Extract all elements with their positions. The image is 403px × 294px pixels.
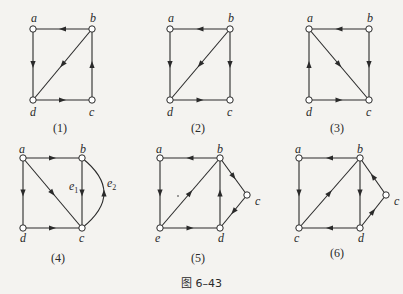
edge-b-c [366,29,371,100]
vertex-label-a: a [19,142,25,156]
graph-5: abcde(5) [155,142,261,265]
graph-caption-5: (5) [191,251,205,265]
figure-6-43: abcd(1)abcd(2)abcd(3)e1e2abcd(4)abcde(5)… [0,0,403,294]
arrowhead-icon [371,174,377,181]
arrowhead-icon [101,190,106,197]
arrowhead-icon [59,97,66,102]
vertex-label-a: a [31,11,37,25]
edge-b-a [160,155,220,160]
arrowhead-icon [49,155,56,160]
arrowhead-icon [197,97,204,102]
arrowhead-icon [227,61,232,68]
vertex-label-b: b [357,142,363,156]
edge-b-d [33,29,92,100]
graph-2: abcd(2) [167,11,234,135]
graph-collection: abcd(1)abcd(2)abcd(3)e1e2abcd(4)abcde(5)… [19,11,400,265]
arrowhead-icon [89,61,94,68]
edge-b-c [220,158,247,195]
arrowhead-icon [157,190,162,197]
edge-b-c [227,29,232,100]
graph-4: e1e2abcd(4) [19,142,116,265]
edge-label-e2: e2 [107,176,116,192]
vertex-label-d: d [167,105,174,119]
arrowhead-icon [217,190,222,197]
edge-a-c [309,29,369,100]
graph-1: abcd(1) [30,11,96,135]
graph-caption-2: (2) [191,121,205,135]
arrowhead-icon [187,155,194,160]
arrowhead-icon [30,61,35,68]
edge-a-b [23,155,82,160]
vertex-label-a: a [156,142,162,156]
figure-caption: 图 6–43 [181,277,222,290]
graph-caption-6: (6) [330,246,344,260]
vertex-a [306,26,312,32]
edge-b-c [79,158,84,228]
graph-6: abcdc(6) [294,142,400,260]
edge-label-e1: e1 [69,179,78,195]
vertex-a [30,26,36,32]
vertex-d [30,97,36,103]
edge-b-d [357,158,362,228]
edge-b-a [33,26,92,31]
arrowhead-icon [366,61,371,68]
vertex-label-d: d [30,105,37,119]
edge-d-c [170,97,230,102]
edge-a-c [23,158,82,228]
edge-d-c [309,97,369,102]
arrowhead-icon [326,155,333,160]
arrowhead-icon [296,190,301,197]
vertex-a [167,26,173,32]
vertex-label-a: a [307,11,313,25]
vertex-label-b: b [90,11,96,25]
vertex-label-d: d [20,231,27,245]
edge-d-c [33,97,92,102]
vertex-label-d: d [358,231,365,245]
arrowhead-icon [306,61,311,68]
arrowhead-icon [229,172,235,179]
vertex-label-d: d [218,231,225,245]
vertex-label-c: c [255,194,261,208]
edge-b-a [299,155,360,160]
arrowhead-icon [59,26,66,31]
edge-a-d [20,158,25,228]
vertex-label-b: b [80,142,86,156]
edge-b-a [309,26,369,31]
vertex-c [366,97,372,103]
edge-c-b [89,29,94,100]
vertex-b [366,26,372,32]
edge-c2-b [360,158,386,195]
arrowhead-icon [187,225,194,230]
arrowhead-icon [357,190,362,197]
vertex-b [227,26,233,32]
vertex-c [89,97,95,103]
vertex-label-a: a [168,11,174,25]
edge-b-d [170,29,230,100]
vertex-label-c: c [227,105,233,119]
graph-caption-4: (4) [51,251,65,265]
edge-d-c [23,225,82,230]
edge-c-d [220,195,247,228]
graph-caption-3: (3) [330,121,344,135]
arrowhead-icon [326,225,333,230]
edge-a-d [167,29,172,100]
vertex-label-b: b [217,142,223,156]
vertex-label-e: e [155,231,161,245]
arrowhead-icon [79,190,84,197]
arrowhead-icon [49,225,56,230]
arrowhead-icon [336,26,343,31]
vertex-label-b: b [228,11,234,25]
vertex-label-c: c [294,231,300,245]
edge-a-c [296,158,301,228]
vertex-label-d: d [306,105,313,119]
arrowhead-icon [197,26,204,31]
edge-e-d [160,225,220,230]
vertex-label-c: c [89,105,95,119]
graph-caption-1: (1) [53,121,67,135]
edge-d-c2 [360,195,386,228]
arrowhead-icon [20,190,25,197]
edge-d-b [217,158,222,228]
edge-c-b [299,158,360,228]
vertex-c2 [383,192,389,198]
edge-d-a [306,29,311,100]
